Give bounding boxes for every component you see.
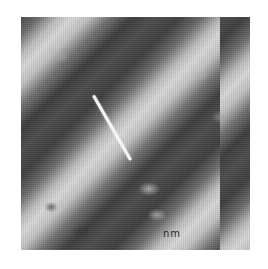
dither-texture — [21, 17, 250, 250]
scale-label: nm — [163, 228, 181, 239]
microscopy-image — [21, 17, 250, 250]
